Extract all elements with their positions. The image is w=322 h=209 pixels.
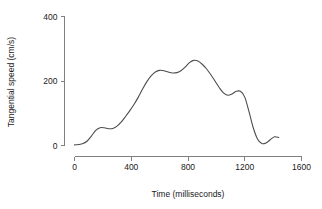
x-tick-label: 0 [72,162,77,172]
y-tick-label: 200 [43,76,57,86]
x-axis-tick-labels: 040080012001600 [72,162,311,172]
speed-data-line [75,60,279,145]
y-tick-label: 0 [53,141,58,151]
chart-figure: 0200400 040080012001600 Time (millisecon… [0,0,322,209]
x-tick-label: 800 [181,162,195,172]
tangential-speed-line-chart: 0200400 040080012001600 Time (millisecon… [0,0,322,209]
y-axis-tick-labels: 0200400 [43,12,57,151]
x-tick-label: 400 [124,162,138,172]
x-tick-label: 1600 [292,162,311,172]
x-axis-ticks [75,157,302,161]
y-axis-title: Tangential speed (cm/s) [6,37,16,127]
y-tick-label: 400 [43,12,57,22]
x-tick-label: 1200 [235,162,254,172]
y-axis-ticks [61,17,65,146]
x-axis-title: Time (milliseconds) [152,189,225,199]
